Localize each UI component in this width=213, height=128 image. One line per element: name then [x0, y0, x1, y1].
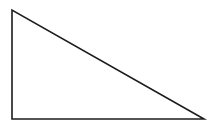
triangle-drawing-surface — [0, 0, 213, 128]
figure-canvas — [0, 0, 213, 128]
right-triangle-shape — [12, 10, 204, 119]
